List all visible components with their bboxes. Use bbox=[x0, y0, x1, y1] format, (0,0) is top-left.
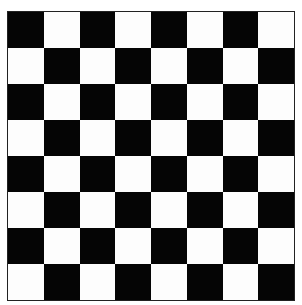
light-square bbox=[151, 120, 187, 156]
dark-square bbox=[115, 48, 151, 84]
light-square bbox=[80, 192, 116, 228]
dark-square bbox=[223, 156, 259, 192]
light-square bbox=[115, 84, 151, 120]
dark-square bbox=[223, 12, 259, 48]
dark-square bbox=[187, 120, 223, 156]
dark-square bbox=[44, 48, 80, 84]
light-square bbox=[187, 228, 223, 264]
light-square bbox=[223, 120, 259, 156]
dark-square bbox=[187, 48, 223, 84]
light-square bbox=[151, 192, 187, 228]
dark-square bbox=[151, 156, 187, 192]
light-square bbox=[223, 264, 259, 300]
light-square bbox=[8, 120, 44, 156]
dark-square bbox=[8, 84, 44, 120]
light-square bbox=[44, 156, 80, 192]
light-square bbox=[44, 84, 80, 120]
light-square bbox=[8, 48, 44, 84]
dark-square bbox=[80, 12, 116, 48]
dark-square bbox=[80, 156, 116, 192]
light-square bbox=[187, 84, 223, 120]
dark-square bbox=[115, 192, 151, 228]
dark-square bbox=[187, 264, 223, 300]
dark-square bbox=[115, 264, 151, 300]
light-square bbox=[115, 12, 151, 48]
light-square bbox=[80, 48, 116, 84]
light-square bbox=[223, 192, 259, 228]
dark-square bbox=[151, 84, 187, 120]
light-square bbox=[258, 12, 294, 48]
dark-square bbox=[115, 120, 151, 156]
dark-square bbox=[44, 264, 80, 300]
light-square bbox=[44, 228, 80, 264]
dark-square bbox=[44, 120, 80, 156]
light-square bbox=[115, 156, 151, 192]
dark-square bbox=[187, 192, 223, 228]
light-square bbox=[80, 264, 116, 300]
dark-square bbox=[258, 264, 294, 300]
dark-square bbox=[223, 228, 259, 264]
dark-square bbox=[258, 120, 294, 156]
dark-square bbox=[8, 228, 44, 264]
light-square bbox=[151, 264, 187, 300]
light-square bbox=[223, 48, 259, 84]
dark-square bbox=[258, 192, 294, 228]
dark-square bbox=[8, 156, 44, 192]
light-square bbox=[258, 228, 294, 264]
dark-square bbox=[80, 84, 116, 120]
light-square bbox=[80, 120, 116, 156]
dark-square bbox=[223, 84, 259, 120]
light-square bbox=[151, 48, 187, 84]
light-square bbox=[115, 228, 151, 264]
light-square bbox=[187, 12, 223, 48]
dark-square bbox=[151, 228, 187, 264]
checkerboard bbox=[7, 11, 295, 301]
dark-square bbox=[44, 192, 80, 228]
light-square bbox=[187, 156, 223, 192]
dark-square bbox=[80, 228, 116, 264]
light-square bbox=[44, 12, 80, 48]
light-square bbox=[8, 192, 44, 228]
dark-square bbox=[151, 12, 187, 48]
dark-square bbox=[8, 12, 44, 48]
light-square bbox=[258, 84, 294, 120]
light-square bbox=[258, 156, 294, 192]
light-square bbox=[8, 264, 44, 300]
dark-square bbox=[258, 48, 294, 84]
